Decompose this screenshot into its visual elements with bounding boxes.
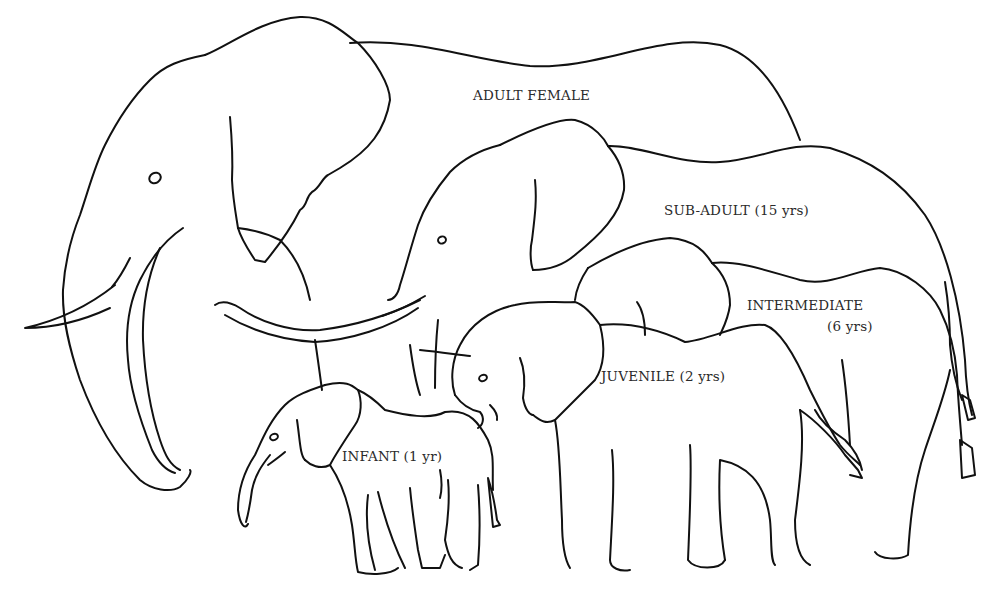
label-infant: INFANT (1 yr) — [342, 450, 442, 464]
juvenile-outline — [452, 302, 862, 571]
elephant-age-diagram: ADULT FEMALE SUB-ADULT (15 yrs) INTERMED… — [0, 0, 1004, 597]
label-sub-adult: SUB-ADULT (15 yrs) — [664, 204, 809, 218]
label-adult-female: ADULT FEMALE — [473, 89, 590, 103]
adult-female-outline — [25, 17, 800, 490]
infant-outline — [238, 383, 500, 574]
label-juvenile: JUVENILE (2 yrs) — [601, 370, 725, 384]
label-intermediate: INTERMEDIATE — [747, 299, 863, 313]
label-intermediate-age: (6 yrs) — [827, 320, 873, 334]
overlap-lines — [410, 320, 470, 395]
sub-adult-outline — [215, 120, 975, 420]
intermediate-outline — [575, 238, 975, 558]
